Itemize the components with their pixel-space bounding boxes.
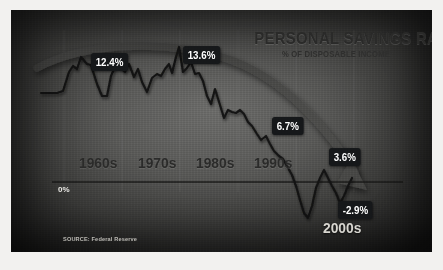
chart-subtitle: % OF DISPOSABLE INCOME <box>252 50 419 59</box>
decade-label-1970s: 1970s <box>138 155 176 170</box>
decade-label-1980s: 1980s <box>196 155 234 170</box>
value-badge-3-6: 3.6% <box>329 148 361 166</box>
value-badge-13-6: 13.6% <box>183 46 220 64</box>
source-credit: SOURCE: Federal Reserve <box>63 236 137 243</box>
chart-panel: PERSONAL SAVINGS RATE % OF DISPOSABLE IN… <box>11 10 432 252</box>
savings-rate-line <box>41 47 352 218</box>
decade-label-2000s: 2000s <box>323 220 361 235</box>
infographic-frame: PERSONAL SAVINGS RATE % OF DISPOSABLE IN… <box>0 0 443 270</box>
value-badge-12-4: 12.4% <box>91 53 128 71</box>
decade-label-1990s: 1990s <box>254 155 292 170</box>
value-badge-neg-2-9: -2.9% <box>338 201 373 219</box>
decade-label-1960s: 1960s <box>79 155 117 170</box>
value-badge-6-7: 6.7% <box>272 117 304 135</box>
axis-label-zero: 0% <box>58 186 70 194</box>
page-title: PERSONAL SAVINGS RATE <box>254 30 418 47</box>
